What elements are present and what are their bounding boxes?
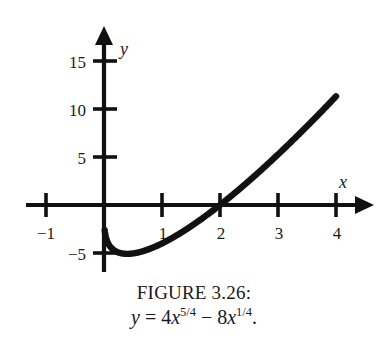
x-axis-label: x	[338, 172, 347, 192]
graph-plot: −1 1 2 3 4 15 10 5 −5 y x	[0, 0, 388, 288]
equation-operator: −	[201, 306, 212, 328]
y-tick-label--5: −5	[68, 245, 86, 264]
y-tick-label-5: 5	[78, 149, 87, 168]
equation-term2-var: x	[227, 306, 236, 328]
x-tick-label--1: −1	[37, 224, 55, 243]
equation-term1-exponent: 5/4	[180, 306, 196, 320]
equation-term2-exponent: 1/4	[236, 306, 252, 320]
x-tick-label-2: 2	[217, 224, 226, 243]
figure-container: −1 1 2 3 4 15 10 5 −5 y x FIGURE 3.26: y…	[0, 0, 388, 342]
x-axis-arrow-icon	[355, 196, 374, 214]
equation-term1-var: x	[171, 306, 180, 328]
equation-lhs: y	[131, 306, 140, 328]
figure-caption: FIGURE 3.26: y = 4x5/4 − 8x1/4.	[0, 282, 388, 329]
y-axis-label: y	[118, 39, 128, 59]
caption-title: FIGURE 3.26:	[0, 282, 388, 303]
y-tick-label-10: 10	[69, 101, 86, 120]
equation-equals: =	[145, 306, 156, 328]
equation-period: .	[252, 306, 257, 328]
equation-term2-coeff: 8	[217, 306, 227, 328]
caption-equation: y = 4x5/4 − 8x1/4.	[0, 306, 388, 328]
x-tick-label-3: 3	[275, 224, 284, 243]
y-axis-arrow-icon	[95, 26, 113, 45]
equation-term1-coeff: 4	[161, 306, 171, 328]
x-tick-label-4: 4	[333, 224, 342, 243]
y-tick-label-15: 15	[69, 53, 86, 72]
